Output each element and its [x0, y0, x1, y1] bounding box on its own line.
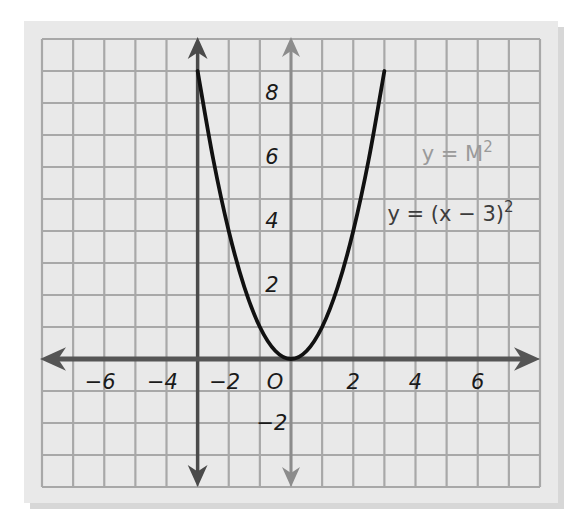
- x-tick-label: −2: [209, 370, 240, 394]
- y-tick-label: 2: [265, 273, 278, 297]
- x-tick-label: O: [267, 370, 284, 394]
- x-tick-label: −4: [147, 370, 178, 394]
- x-tick-label: −6: [85, 370, 116, 394]
- y-tick-label: −2: [257, 411, 288, 435]
- y-tick-label: 8: [265, 81, 278, 105]
- equation-label: y = (x − 3)2: [387, 198, 513, 226]
- y-tick-label: 4: [265, 209, 278, 233]
- parabola-graph: −6−4−2O246−22468 y = M2y = (x − 3)2: [0, 0, 583, 531]
- y-tick-label: 6: [265, 145, 278, 169]
- x-tick-label: 2: [347, 370, 360, 394]
- equation-label: y = M2: [422, 138, 493, 166]
- x-tick-label: 4: [409, 370, 422, 394]
- x-tick-label: 6: [471, 370, 484, 394]
